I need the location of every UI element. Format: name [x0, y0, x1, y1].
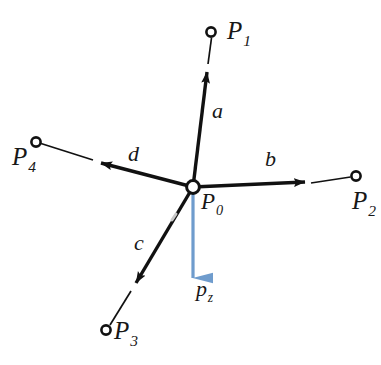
tail-line-p2: [311, 177, 351, 183]
point-label-p1-base: P: [227, 17, 242, 44]
vector-diagram: P1 P2 P3 P4 P0 a b c d pz: [0, 0, 381, 365]
force-label-pz: pz: [196, 278, 212, 300]
point-label-p1: P1: [227, 18, 250, 43]
node-marker-p1: [206, 27, 215, 36]
point-label-p2-sub: 2: [368, 202, 376, 219]
point-label-p4: P4: [12, 144, 35, 169]
tail-line-p1: [208, 38, 212, 64]
node-marker-p3: [101, 325, 110, 334]
point-label-p3: P3: [114, 318, 137, 343]
diagram-canvas: [0, 0, 381, 365]
force-label-pz-base: p: [196, 276, 207, 301]
point-label-p2-base: P: [352, 187, 367, 214]
point-label-p4-sub: 4: [28, 158, 36, 175]
vector-label-b: b: [265, 148, 276, 170]
force-label-pz-sub: z: [208, 290, 213, 305]
vector-arrow-b: [193, 182, 305, 187]
vector-label-a: a: [212, 100, 223, 122]
point-label-p3-sub: 3: [130, 332, 138, 349]
node-marker-p2: [351, 171, 360, 180]
tail-line-p4: [41, 144, 93, 161]
vector-arrow-c: [136, 187, 193, 283]
vector-label-d: d: [128, 143, 139, 165]
node-marker-p0: [187, 181, 200, 194]
point-label-p0-base: P: [201, 189, 215, 214]
point-label-p1-sub: 1: [243, 32, 251, 49]
point-label-p4-base: P: [12, 143, 27, 170]
point-label-p3-base: P: [114, 317, 129, 344]
point-label-p2: P2: [352, 188, 375, 213]
vector-arrows: [101, 72, 305, 283]
vector-label-c: c: [134, 232, 144, 254]
vector-arrow-d: [101, 163, 193, 187]
point-label-p0: P0: [201, 190, 222, 213]
point-label-p0-sub: 0: [216, 202, 223, 218]
vector-arrow-a: [193, 72, 207, 187]
